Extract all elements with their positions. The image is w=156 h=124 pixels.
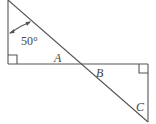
- right-angle-marker-left: [8, 55, 17, 64]
- angle-label: 50°: [21, 34, 38, 48]
- point-label-b: B: [96, 66, 104, 80]
- geometry-diagram: 50° A B C: [0, 0, 156, 124]
- right-angle-marker-right: [139, 64, 148, 73]
- point-label-c: C: [136, 100, 145, 114]
- transversal-line: [8, 0, 148, 122]
- point-label-a: A: [53, 51, 62, 65]
- arrowhead-right-icon: [26, 22, 32, 27]
- arrowhead-left-icon: [9, 29, 15, 34]
